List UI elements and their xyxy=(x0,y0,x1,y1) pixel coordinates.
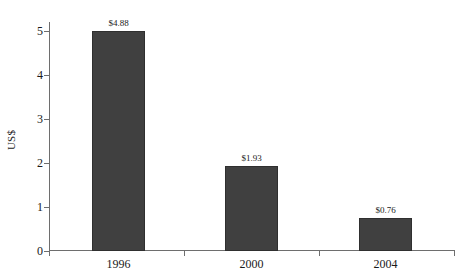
bar-2000 xyxy=(225,166,278,251)
category-label-2000: 2000 xyxy=(219,256,284,272)
y-tick-mark xyxy=(44,119,49,120)
x-tick-3 xyxy=(454,251,455,256)
category-label-1996: 1996 xyxy=(86,256,151,272)
y-tick-mark xyxy=(44,207,49,208)
y-tick-label: 0 xyxy=(37,243,43,259)
y-tick-mark xyxy=(44,75,49,76)
bar-chart: US$ 0 1 2 3 4 5 xyxy=(0,0,463,279)
bar-value-2000: $1.93 xyxy=(221,153,282,164)
x-tick-2 xyxy=(319,251,320,256)
y-axis-title-text: US$ xyxy=(5,130,17,150)
y-tick-label: 3 xyxy=(37,111,43,127)
x-tick-0 xyxy=(49,251,50,256)
bar-2004 xyxy=(359,218,412,251)
y-tick-label: 4 xyxy=(37,67,43,83)
bar-1996 xyxy=(92,31,145,251)
x-tick-1 xyxy=(184,251,185,256)
plot-area: 0 1 2 3 4 5 $4.88 1996 xyxy=(49,22,455,251)
y-axis-title: US$ xyxy=(0,118,22,162)
category-label-2004: 2004 xyxy=(353,256,418,272)
bar-value-2004: $0.76 xyxy=(355,205,416,216)
y-tick-label: 2 xyxy=(37,155,43,171)
y-axis-line xyxy=(49,22,50,251)
y-tick-label: 1 xyxy=(37,199,43,215)
y-tick-label: 5 xyxy=(37,23,43,39)
y-tick-mark xyxy=(44,31,49,32)
y-tick-mark xyxy=(44,163,49,164)
bar-value-1996: $4.88 xyxy=(88,18,149,29)
